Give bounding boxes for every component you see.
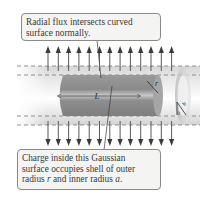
- top-callout-line-2: surface normally.: [26, 28, 156, 39]
- bottom-callout-period: .: [120, 174, 122, 184]
- length-label: L: [93, 91, 99, 101]
- arrow-head: [76, 139, 81, 146]
- arrow-head: [128, 139, 133, 146]
- bottom-callout-text: and inner radius: [51, 174, 116, 184]
- arrow-head: [66, 139, 71, 146]
- arrow-head: [118, 46, 123, 53]
- shell-end-cap-inner: [178, 76, 189, 116]
- arrow-head: [66, 46, 71, 53]
- arrow-head: [107, 46, 112, 53]
- arrow-head: [56, 139, 61, 146]
- arrow-head: [148, 46, 153, 53]
- arrow-head: [87, 46, 92, 53]
- arrow-head: [45, 46, 50, 53]
- arrow-head: [148, 139, 153, 146]
- top-callout: Radial flux intersects curved surface no…: [21, 13, 161, 41]
- arrow-head: [159, 46, 164, 53]
- bottom-callout-line-3: radius r and inner radius a.: [22, 174, 156, 185]
- arrow-head: [76, 46, 81, 53]
- bottom-callout-text: radius: [22, 174, 47, 184]
- arrow-head: [107, 139, 112, 146]
- bottom-callout-line-2: surface occupies shell of outer: [22, 164, 156, 175]
- arrow-head: [159, 139, 164, 146]
- bottom-callout: Charge inside this Gaussian surface occu…: [17, 149, 161, 190]
- bottom-callout-line-1: Charge inside this Gaussian: [22, 153, 156, 164]
- top-callout-line-1: Radial flux intersects curved: [26, 17, 156, 28]
- arrow-head: [169, 46, 174, 53]
- arrow-head: [118, 139, 123, 146]
- arrow-head: [128, 46, 133, 53]
- arrow-head: [138, 46, 143, 53]
- arrow-head: [138, 139, 143, 146]
- arrow-head: [169, 139, 174, 146]
- arrow-head: [87, 139, 92, 146]
- arrow-head: [56, 46, 61, 53]
- arrow-head: [45, 139, 50, 146]
- arrow-head: [97, 139, 102, 146]
